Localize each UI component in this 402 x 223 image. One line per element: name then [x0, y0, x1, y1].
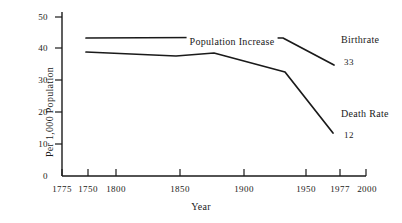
x-tick-label-2000: 2000: [357, 184, 377, 194]
y-tick-label-40: 40: [28, 43, 48, 53]
x-tick-label-1850: 1850: [170, 184, 190, 194]
series-label-birthrate: Birthrate: [341, 34, 379, 45]
y-tick-label-50: 50: [28, 12, 48, 22]
y-tick-label-20: 20: [28, 107, 48, 117]
annotation-population-increase: Population Increase: [187, 36, 278, 47]
line-chart: Per 1,000 Population 50 40 30 20 10 0 17…: [0, 0, 402, 223]
series-line-death-rate: [86, 52, 333, 133]
y-tick-label-30: 30: [28, 75, 48, 85]
y-tick-label-10: 10: [28, 139, 48, 149]
x-tick-label-1900: 1900: [234, 184, 254, 194]
x-tick-label-1950: 1950: [296, 184, 316, 194]
series-value-birthrate: 33: [344, 57, 354, 67]
x-axis-ticks: [62, 169, 366, 176]
y-tick-label-0: 0: [28, 171, 48, 181]
x-tick-label-1750: 1750: [78, 184, 98, 194]
x-tick-label-1775: 1775: [52, 184, 72, 194]
y-axis-ticks: [55, 17, 62, 144]
series-value-death-rate: 12: [344, 130, 354, 140]
x-tick-label-1977: 1977: [330, 184, 350, 194]
series-label-death-rate: Death Rate: [341, 108, 389, 119]
x-tick-label-1800: 1800: [106, 184, 126, 194]
x-axis-title: Year: [191, 201, 211, 212]
